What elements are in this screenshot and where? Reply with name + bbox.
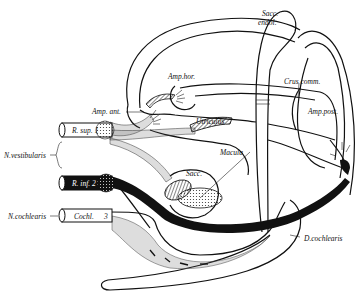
inner-ear-diagram: Sacc. endol. Amp.hor. Crus comm. Amp. an… (0, 0, 360, 291)
inferior-vestibular-branch (110, 176, 350, 233)
label-amp-post: Amp.post. (307, 107, 338, 116)
label-n-vestibularis: N.vestibularis (3, 151, 46, 160)
label-amp-hor: Amp.hor. (167, 72, 195, 81)
label-sacc: Sacc. (186, 169, 202, 178)
label-r-sup: R. sup. 1 (71, 126, 98, 135)
label-n-cochlearis: N.cochlearis (7, 212, 46, 221)
label-macula: Macula (219, 148, 243, 157)
label-sacc-endol-2: endol. (258, 18, 277, 27)
saccus-endolymphaticus (256, 11, 296, 232)
utriculus (140, 110, 343, 175)
label-crus-comm: Crus comm. (284, 77, 320, 86)
label-cochl-num: 3 (103, 212, 108, 221)
label-d-cochlearis: D.cochlearis (303, 234, 343, 243)
ampulla-horizontal (146, 86, 195, 110)
ductus-cochlearis (101, 200, 300, 290)
superior-vestibular-branch-fibers (110, 115, 195, 182)
label-amp-ant: Amp. ant. (91, 107, 121, 116)
label-cochl: Cochl. (74, 212, 94, 221)
label-r-inf: R. inf. 2 (71, 179, 96, 188)
label-utriculus: Utriculus (196, 117, 224, 126)
ampulla-posterior (330, 140, 350, 175)
vestibularis-bracket (56, 142, 62, 168)
label-sacc-endol-1: Sacc. (262, 9, 278, 18)
